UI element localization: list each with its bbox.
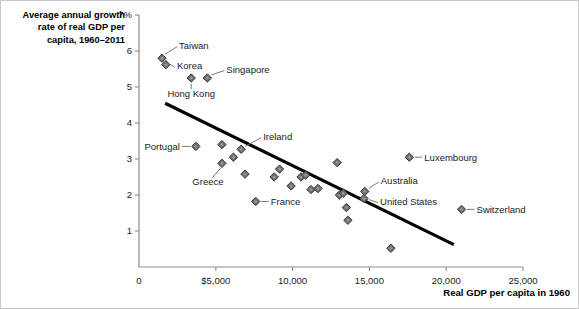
x-tick-label: 15,000	[355, 275, 384, 286]
point-label: Singapore	[226, 64, 269, 75]
x-tick-label: 20,000	[432, 275, 461, 286]
point-label: Korea	[177, 60, 203, 71]
x-axis-title: Real GDP per capita in 1960	[443, 287, 570, 298]
y-tick-label: 1	[127, 225, 132, 236]
data-point	[287, 182, 295, 190]
chart-title-line-3: capita, 1960–2011	[7, 34, 125, 46]
data-point	[241, 170, 249, 178]
label-leader-line	[165, 47, 177, 55]
data-point	[192, 142, 200, 150]
point-label: Luxembourg	[424, 152, 477, 163]
data-point	[342, 203, 350, 211]
data-point	[218, 159, 226, 167]
label-leader-line	[369, 182, 379, 189]
data-point	[344, 216, 352, 224]
y-tick-label: 2	[127, 189, 132, 200]
data-point	[314, 184, 322, 192]
axis-lines	[139, 15, 523, 267]
chart-title-line-2: rate of real GDP per	[7, 21, 125, 33]
data-point	[361, 187, 369, 195]
y-tick-label: 3	[127, 153, 132, 164]
data-point	[218, 140, 226, 148]
data-point	[252, 197, 260, 205]
chart-title: Average annual growth rate of real GDP p…	[7, 9, 125, 46]
trend-line-layer	[165, 103, 454, 244]
x-tick-label: 10,000	[278, 275, 307, 286]
data-point	[387, 244, 395, 252]
data-point	[405, 153, 413, 161]
point-label: France	[271, 196, 301, 207]
data-point	[307, 185, 315, 193]
data-point	[237, 145, 245, 153]
data-point	[187, 74, 195, 82]
scatter-chart: Average annual growth rate of real GDP p…	[1, 1, 578, 308]
y-tick-label: 4	[127, 117, 132, 128]
point-label: United States	[380, 196, 437, 207]
plot-area: 1234567%0$5,00010,00015,00020,00025,000 …	[1, 1, 579, 309]
point-label: Hong Kong	[167, 88, 215, 99]
data-point	[229, 153, 237, 161]
point-label: Switzerland	[477, 204, 526, 215]
data-point	[275, 165, 283, 173]
data-point	[333, 158, 341, 166]
data-point	[203, 74, 211, 82]
x-tick-label: 25,000	[508, 275, 537, 286]
chart-title-line-1: Average annual growth	[7, 9, 125, 21]
point-label: Ireland	[263, 131, 292, 142]
point-label: Taiwan	[179, 40, 209, 51]
trend-line	[165, 103, 454, 244]
point-label: Greece	[192, 176, 223, 187]
point-label: Portugal	[144, 141, 179, 152]
data-points-layer	[158, 54, 466, 252]
data-point	[457, 205, 465, 213]
point-label: Australia	[381, 175, 419, 186]
y-tick-label: 5	[127, 81, 132, 92]
x-tick-label: $5,000	[201, 275, 230, 286]
y-tick-label: 6	[127, 45, 132, 56]
label-leader-line	[211, 71, 224, 76]
x-tick-label: 0	[136, 275, 141, 286]
data-point	[270, 173, 278, 181]
point-labels-layer: TaiwanKoreaHong KongSingaporePortugalGre…	[144, 40, 525, 215]
